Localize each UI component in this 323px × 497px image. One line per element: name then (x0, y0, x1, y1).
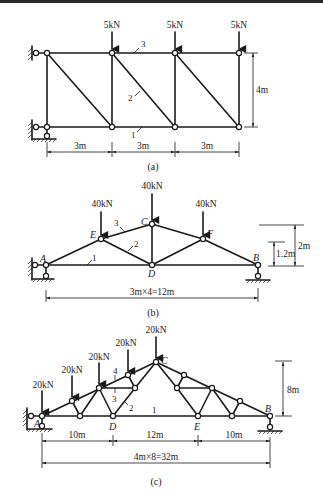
svg-text:3m×4=12m: 3m×4=12m (130, 287, 175, 297)
svg-text:3m: 3m (201, 141, 214, 151)
dimension-height: 4m (244, 53, 269, 127)
node-label-e: E (193, 421, 200, 432)
figure-caption: (a) (147, 161, 158, 173)
node-label-a: A (39, 253, 47, 264)
node-label-b: B (265, 403, 271, 414)
svg-text:10m: 10m (226, 430, 244, 440)
node-label-a: A (33, 418, 41, 429)
svg-text:3m: 3m (74, 141, 87, 151)
member-label: 1 (92, 253, 97, 263)
figure-c: A D C E B 20kN 20kN 20kN 20kN 20kN 1 2 3… (23, 325, 300, 488)
load-label: 20kN (88, 352, 109, 362)
load-label: 20kN (115, 338, 136, 348)
dimension-spans: 3m 3m 3m (47, 141, 239, 157)
dimension-height: 8m (275, 361, 300, 416)
svg-text:10m: 10m (69, 430, 87, 440)
figure-caption: (b) (147, 307, 159, 319)
load-label: 5kN (104, 20, 121, 30)
svg-text:4m×8=32m: 4m×8=32m (134, 452, 179, 462)
node-label-c: C (141, 216, 148, 227)
figure-b: A E C F B D 40kN 40kN 40kN 1 2 3 3m×4=12… (28, 181, 311, 319)
member-label: 1 (152, 405, 157, 415)
truss-figures: 5kN 5kN 5kN 3 2 1 3m 3m 3m 4m (a) (0, 0, 323, 497)
wall-support-bottom-icon (28, 120, 56, 142)
load-label: 20kN (32, 380, 53, 390)
load-label: 5kN (231, 20, 248, 30)
node-label-d: D (147, 268, 156, 279)
member-label: 3 (141, 39, 146, 49)
node-label-e: E (89, 229, 96, 240)
node-label-f: F (206, 228, 214, 239)
dimension-heights: 1.2m 2m (259, 225, 311, 266)
svg-text:12m: 12m (147, 430, 165, 440)
member-label: 3 (114, 218, 119, 228)
load-label: 20kN (145, 325, 166, 335)
figure-caption: (c) (150, 476, 161, 488)
top-rule (0, 0, 323, 3)
svg-text:8m: 8m (287, 385, 300, 395)
member-label: 3 (112, 394, 117, 404)
load-label: 40kN (141, 181, 162, 191)
load-label: 20kN (61, 365, 82, 375)
load-label: 5kN (167, 20, 184, 30)
dimension-span: 4m×8=32m (42, 452, 270, 463)
svg-text:3m: 3m (137, 141, 150, 151)
dimension-span: 3m×4=12m (46, 287, 258, 302)
figure-a: 5kN 5kN 5kN 3 2 1 3m 3m 3m 4m (a) (28, 20, 269, 173)
node-label-c: C (161, 355, 168, 366)
member-label: 4 (113, 366, 118, 376)
svg-text:1.2m: 1.2m (276, 249, 296, 259)
member-label: 1 (131, 130, 136, 140)
svg-text:4m: 4m (256, 85, 269, 95)
node-label-b: B (253, 252, 259, 263)
dimension-segments: 10m 12m 10m (42, 430, 270, 468)
member-label: 2 (128, 93, 133, 103)
load-label: 40kN (195, 199, 216, 209)
member-label: 2 (134, 239, 139, 249)
member-label: 2 (129, 403, 134, 413)
load-label: 40kN (91, 199, 112, 209)
svg-text:2m: 2m (298, 241, 311, 251)
node-label-d: D (108, 421, 117, 432)
